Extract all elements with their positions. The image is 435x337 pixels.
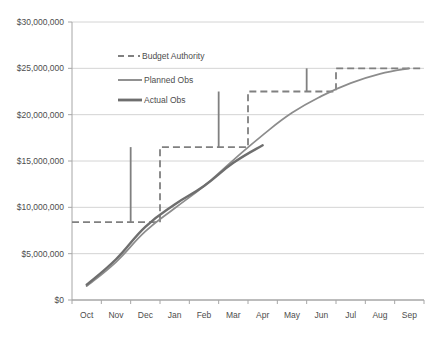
y-tick-label-5: $25,000,000	[17, 63, 65, 73]
x-tick-label-apr: Apr	[256, 310, 269, 320]
x-tick-label-jan: Jan	[168, 310, 182, 320]
y-tick-label-0: $0	[55, 295, 65, 305]
chart-container: $0$5,000,000$10,000,000$15,000,000$20,00…	[0, 0, 435, 337]
legend-label-planned-obs: Planned Obs	[144, 75, 193, 85]
y-tick-label-6: $30,000,000	[17, 17, 65, 27]
chart-background	[0, 0, 435, 337]
x-tick-label-aug: Aug	[372, 310, 387, 320]
x-tick-label-nov: Nov	[108, 310, 124, 320]
x-tick-label-mar: Mar	[226, 310, 241, 320]
x-tick-label-may: May	[284, 310, 301, 320]
x-tick-label-dec: Dec	[138, 310, 154, 320]
x-tick-label-sep: Sep	[402, 310, 417, 320]
legend-label-budget-authority: Budget Authority	[142, 51, 205, 61]
x-tick-label-jul: Jul	[345, 310, 356, 320]
y-tick-label-3: $15,000,000	[17, 156, 65, 166]
x-tick-label-jun: Jun	[314, 310, 328, 320]
legend-label-actual-obs: Actual Obs	[144, 95, 186, 105]
y-tick-label-4: $20,000,000	[17, 110, 65, 120]
x-tick-label-oct: Oct	[80, 310, 94, 320]
x-tick-label-feb: Feb	[197, 310, 212, 320]
budget-obligations-line-chart: $0$5,000,000$10,000,000$15,000,000$20,00…	[0, 0, 435, 337]
y-tick-label-1: $5,000,000	[21, 249, 64, 259]
y-tick-label-2: $10,000,000	[17, 202, 65, 212]
